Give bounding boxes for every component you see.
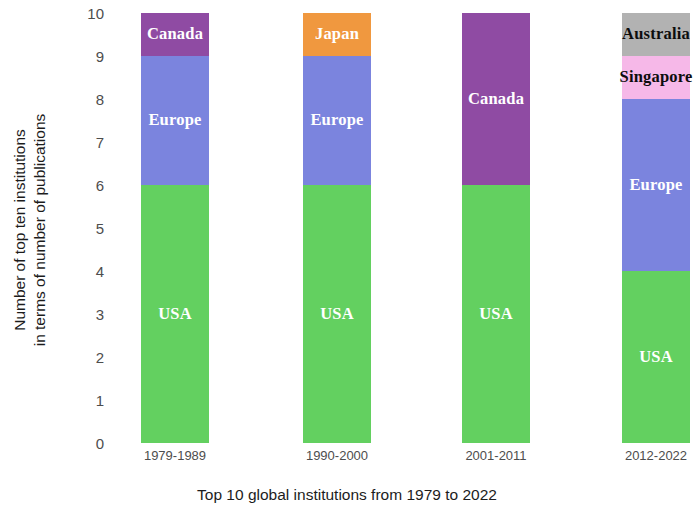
- plot-area: USAEuropeCanadaUSAEuropeJapanUSACanadaUS…: [104, 0, 694, 460]
- bar-segment-usa[interactable]: USA: [141, 185, 209, 443]
- x-axis-tick-label: 2001-2011: [446, 448, 546, 463]
- x-axis-tick-label: 1990-2000: [287, 448, 387, 463]
- y-axis-title-line1: Number of top ten institutions: [10, 129, 30, 331]
- bar-segment-label: Canada: [147, 26, 203, 43]
- bar-segment-canada[interactable]: Canada: [462, 13, 530, 185]
- bar-segment-japan[interactable]: Japan: [303, 13, 371, 56]
- bar-segment-label: USA: [158, 306, 192, 323]
- y-axis-tick-label: 8: [64, 91, 104, 108]
- bar-1979-1989[interactable]: USAEuropeCanada: [141, 13, 209, 443]
- y-axis-tick-label: 2: [64, 349, 104, 366]
- x-axis-tick-label: 2012-2022: [606, 448, 694, 463]
- y-axis-tick-label: 10: [64, 5, 104, 22]
- bar-segment-europe[interactable]: Europe: [141, 56, 209, 185]
- bar-segment-australia[interactable]: Australia: [622, 13, 690, 56]
- bar-segment-label: Japan: [315, 26, 359, 43]
- x-axis-title: Top 10 global institutions from 1979 to …: [0, 486, 694, 504]
- bar-segment-label: USA: [479, 306, 513, 323]
- bar-segment-usa[interactable]: USA: [462, 185, 530, 443]
- bar-2001-2011[interactable]: USACanada: [462, 13, 530, 443]
- bar-segment-canada[interactable]: Canada: [141, 13, 209, 56]
- y-axis-title-line2: in terms of number of publications: [30, 114, 50, 347]
- y-axis-tick-label: 7: [64, 134, 104, 151]
- x-axis-tick-label: 1979-1989: [125, 448, 225, 463]
- bar-segment-singapore[interactable]: Singapore: [622, 56, 690, 99]
- bar-2012-2022[interactable]: USAEuropeSingaporeAustralia: [622, 13, 690, 443]
- y-axis-tick-label: 3: [64, 306, 104, 323]
- y-axis-tick-label: 6: [64, 177, 104, 194]
- bar-segment-europe[interactable]: Europe: [303, 56, 371, 185]
- bar-segment-label: Canada: [468, 91, 524, 108]
- y-axis-tick-label: 5: [64, 220, 104, 237]
- bar-segment-label: Europe: [148, 112, 201, 129]
- y-axis-tick-label: 1: [64, 392, 104, 409]
- stacked-bar-chart: Number of top ten institutions in terms …: [0, 0, 694, 514]
- y-axis-title: Number of top ten institutions in terms …: [0, 0, 62, 460]
- bar-1990-2000[interactable]: USAEuropeJapan: [303, 13, 371, 443]
- y-axis-tick-label: 9: [64, 48, 104, 65]
- bar-segment-label: Europe: [310, 112, 363, 129]
- bar-segment-label: USA: [639, 349, 673, 366]
- y-axis-tick-label: 4: [64, 263, 104, 280]
- bar-segment-label: Europe: [629, 177, 682, 194]
- y-axis-ticks: 109876543210: [60, 0, 104, 460]
- bar-segment-label: Australia: [622, 26, 690, 43]
- y-axis-tick-label: 0: [64, 435, 104, 452]
- bar-segment-label: Singapore: [620, 69, 693, 86]
- bar-segment-label: USA: [320, 306, 354, 323]
- bar-segment-europe[interactable]: Europe: [622, 99, 690, 271]
- bar-segment-usa[interactable]: USA: [303, 185, 371, 443]
- bar-segment-usa[interactable]: USA: [622, 271, 690, 443]
